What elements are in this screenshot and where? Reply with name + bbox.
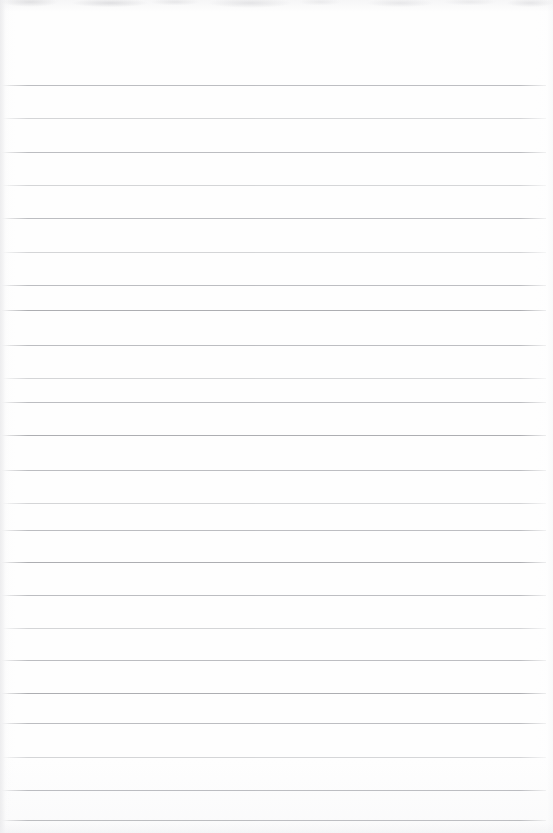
page-text-content: [0, 0, 553, 833]
scanned-page: [0, 0, 553, 833]
